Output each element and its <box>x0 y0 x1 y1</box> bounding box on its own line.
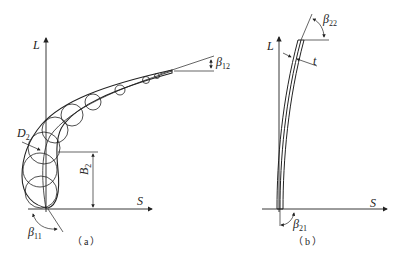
diagram-canvas <box>0 0 397 265</box>
l-axis-label-a: L <box>33 39 40 51</box>
s-axis-label-b: S <box>370 197 376 209</box>
l-axis-label-b: L <box>267 40 274 52</box>
camber-line-a <box>43 71 172 209</box>
blade-outline-a <box>22 70 172 208</box>
caption-b: （b） <box>293 237 324 247</box>
blade-plate-b <box>277 40 304 209</box>
b2-label: B2 <box>78 164 93 175</box>
s-axis-label-a: S <box>137 195 143 207</box>
t-label: t <box>313 55 316 67</box>
beta22-label: β22 <box>323 13 337 28</box>
figure-b <box>262 14 387 226</box>
beta21-label: β21 <box>293 218 307 233</box>
beta11-label: β11 <box>28 226 42 241</box>
beta12-label: β12 <box>216 56 230 71</box>
figure-a <box>22 38 214 232</box>
d2-label: D2 <box>17 127 30 142</box>
caption-a: （a） <box>72 237 102 247</box>
